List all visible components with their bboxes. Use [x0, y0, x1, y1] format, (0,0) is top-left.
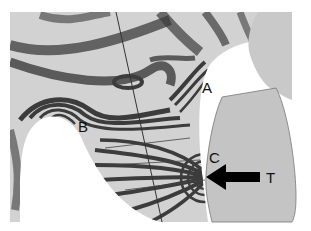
fringe-pattern-graphic [0, 0, 311, 231]
label-c: C [209, 150, 220, 165]
label-t: T [266, 170, 275, 185]
label-a: A [202, 80, 212, 95]
label-b: B [78, 119, 88, 134]
photoelastic-figure: A B C T [0, 0, 311, 231]
driven-gear-upper [248, 12, 292, 100]
